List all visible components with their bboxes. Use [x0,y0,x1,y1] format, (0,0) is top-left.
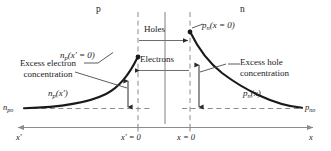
axis-label-x: x [309,133,313,143]
region-label-p: p [96,4,101,15]
right-function-arg: (x) [251,88,261,98]
excess-hole-line-2: concentration [240,68,289,78]
flow-label-electrons: Electrons [140,54,174,64]
pno-subscript: no [309,107,315,113]
left-curve-function-label: np(x') [48,88,68,99]
axis-label-x-prime: x' [16,133,22,143]
excess-hole-line-1: Excess hole [240,57,283,67]
right-boundary-arg: (x = 0) [210,20,235,30]
excess-electron-line-2: concentration [24,69,73,79]
asymptote-label-pno: pno [305,103,315,113]
leader-left-boundary-label [98,53,113,64]
pn-junction-carrier-concentration-figure: p n Holes Electrons np(x' = 0) pn(x = 0)… [0,0,331,151]
right-boundary-value-label: pn(x = 0) [202,20,235,31]
right-curve-function-label: pn(x) [243,88,261,99]
tick-label-x-zero: x = 0 [177,133,195,143]
right-boundary-point [188,30,193,35]
horizontal-axis [18,124,313,132]
left-function-arg: (x') [56,88,68,98]
annotation-excess-electron-concentration: Excess electron concentration [10,58,86,80]
annotation-excess-hole-concentration: Excess hole concentration [240,57,316,79]
region-label-n: n [240,4,245,15]
tick-label-x-prime-zero: x' = 0 [121,133,141,143]
flow-label-holes: Holes [144,24,165,34]
excess-electron-line-1: Excess electron [20,58,76,68]
asymptote-label-npo: npo [3,103,13,113]
npo-subscript: po [7,107,13,113]
